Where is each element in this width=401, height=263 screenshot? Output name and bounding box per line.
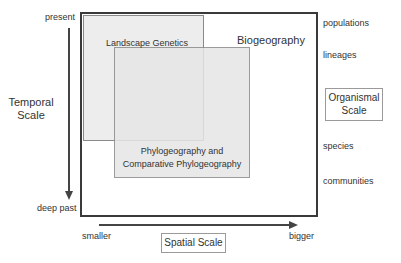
- biogeography-label: Biogeography: [237, 34, 305, 46]
- phylogeography-label-line1: Phylogeography and: [114, 146, 250, 156]
- organismal-scale-label: Organismal Scale: [325, 88, 383, 121]
- spatial-scale-label: Spatial Scale: [161, 233, 226, 253]
- organismal-level-species: species: [323, 141, 354, 151]
- temporal-top-label: present: [45, 12, 75, 22]
- organismal-level-communities: communities: [323, 176, 374, 186]
- spatial-arrow-icon: [97, 220, 301, 230]
- organismal-level-lineages: lineages: [323, 50, 357, 60]
- landscape-genetics-label: Landscape Genetics: [106, 38, 188, 48]
- phylogeography-label-line2: Comparative Phylogeography: [114, 159, 250, 169]
- spatial-left-label: smaller: [82, 231, 111, 241]
- temporal-scale-label: Temporal Scale: [2, 96, 60, 122]
- temporal-bottom-label: deep past: [37, 203, 77, 213]
- spatial-right-label: bigger: [289, 231, 314, 241]
- temporal-arrow-icon: [64, 26, 74, 202]
- organismal-level-populations: populations: [323, 18, 369, 28]
